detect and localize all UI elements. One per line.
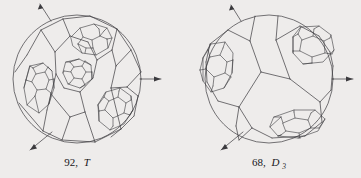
outer-circle-right: [205, 15, 333, 143]
panel-left: [13, 4, 161, 150]
major-edges-left: [15, 16, 141, 142]
panel-right: [200, 5, 353, 150]
major-edges-right: [206, 16, 333, 140]
caption-left-count: 92,: [64, 156, 78, 168]
patch-upper-right-right-panel: [293, 26, 334, 64]
caption-right-count: 68,: [252, 156, 266, 168]
caption-left: 92, T: [64, 156, 91, 168]
caption-left-symmetry: T: [84, 156, 91, 168]
outer-circle-left: [13, 15, 141, 143]
figure-root: 92, T 68, D 3: [0, 0, 361, 178]
figure-svg: 92, T 68, D 3: [0, 0, 361, 178]
patch-upper-left-panel: [71, 24, 112, 55]
caption-right: 68, D 3: [252, 156, 286, 171]
patch-bottom-right-panel: [270, 110, 325, 138]
patch-lower-right-panel: [98, 88, 133, 130]
caption-right-subscript: 3: [281, 162, 286, 171]
patch-lower-left-panel: [24, 63, 54, 113]
caption-right-symmetry: D: [271, 156, 280, 168]
